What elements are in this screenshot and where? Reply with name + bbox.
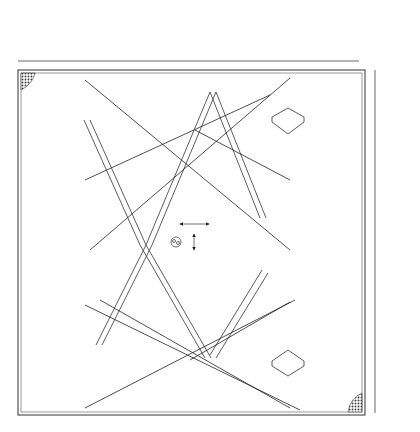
center-details: [171, 224, 209, 250]
cable-lines: [85, 78, 300, 410]
plan-frame: [18, 70, 365, 415]
diamond-top: [272, 108, 304, 134]
diamond-bottom: [272, 350, 304, 376]
structural-plan-drawing: [0, 0, 420, 432]
hatch-top-left: [21, 73, 35, 90]
corner-hatches: [21, 73, 362, 412]
hatch-bottom-right: [348, 393, 362, 412]
diamond-openings: [272, 108, 304, 376]
